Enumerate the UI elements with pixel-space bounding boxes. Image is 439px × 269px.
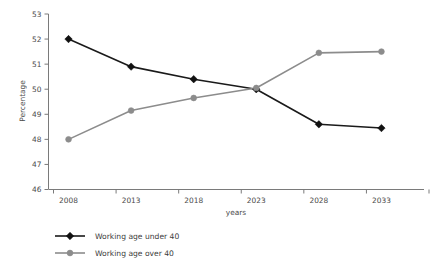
x-tick-label: 2008	[59, 196, 78, 205]
legend-item[interactable]: Working age under 40	[55, 232, 179, 241]
series-line	[69, 52, 382, 140]
series-layer	[65, 35, 385, 142]
series-markers	[66, 49, 385, 143]
data-point-marker	[191, 95, 197, 101]
data-point-marker	[253, 85, 259, 91]
x-tick-label: 2028	[309, 196, 328, 205]
y-tick-label: 46	[32, 185, 42, 194]
line-chart-figure: 4647484950515253 20082013201820232028203…	[0, 0, 439, 269]
data-point-marker	[190, 75, 197, 82]
y-tick-label: 52	[32, 35, 41, 44]
y-tick-label: 50	[32, 85, 42, 94]
diamond-marker-icon	[66, 232, 73, 239]
chart-canvas: 4647484950515253 20082013201820232028203…	[0, 0, 439, 269]
x-tick-label: 2013	[122, 196, 141, 205]
data-point-marker	[316, 50, 322, 56]
data-point-marker	[65, 35, 72, 42]
legend-label: Working age over 40	[95, 249, 174, 258]
data-point-marker	[127, 63, 134, 70]
data-point-marker	[378, 124, 385, 131]
data-point-marker	[379, 49, 385, 55]
y-tick-label: 53	[32, 10, 42, 19]
y-axis-ticks: 4647484950515253	[32, 10, 48, 195]
circle-marker-icon	[67, 250, 73, 256]
y-axis-title: Percentage	[18, 80, 27, 122]
x-axis-title: years	[226, 208, 246, 217]
y-tick-label: 51	[32, 60, 42, 69]
x-tick-label: 2033	[372, 196, 391, 205]
y-tick-label: 48	[32, 135, 42, 144]
legend-item[interactable]: Working age over 40	[55, 249, 174, 258]
y-tick-label: 47	[32, 160, 42, 169]
y-tick-label: 49	[32, 110, 42, 119]
legend-label: Working age under 40	[95, 232, 179, 241]
axes-group	[49, 14, 425, 190]
data-point-marker	[315, 121, 322, 128]
x-axis-ticks: 200820132018202320282033	[54, 190, 430, 205]
data-point-marker	[66, 136, 72, 142]
chart-legend: Working age under 40Working age over 40	[55, 232, 179, 258]
x-tick-label: 2018	[184, 196, 203, 205]
x-tick-label: 2023	[247, 196, 266, 205]
data-series	[69, 52, 382, 140]
data-point-marker	[128, 108, 134, 114]
